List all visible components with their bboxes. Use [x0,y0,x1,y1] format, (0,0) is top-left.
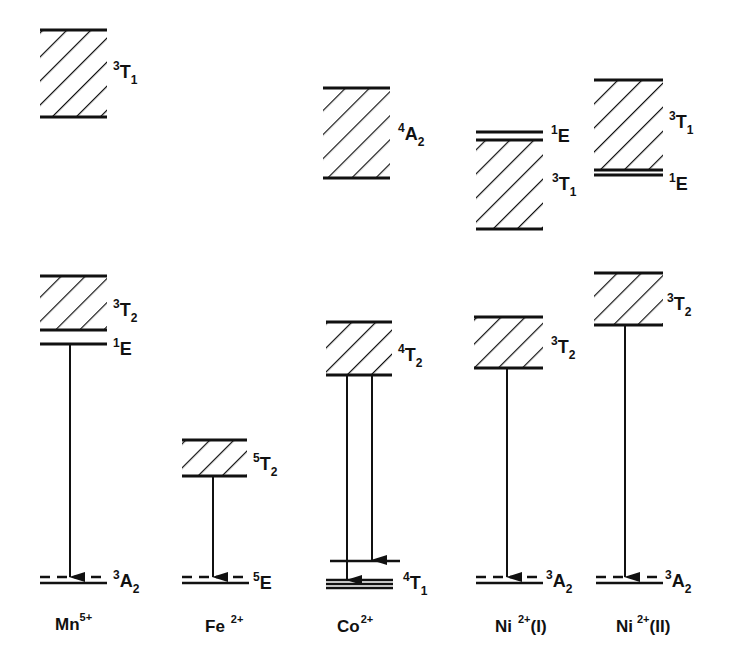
ion-column-ni2-ii: 3T1 1E 3T2 3A2 Ni2+(II) [594,80,694,636]
level-ground-4t1 [326,580,393,588]
ion-column-mn5: 3T1 3T2 1E 3A2 Mn5+ [40,30,140,634]
level-band-3t2 [40,276,107,330]
level-band-3t2 [594,273,663,325]
level-ground-3a2 [40,577,107,583]
level-band-3t2 [474,317,543,368]
ion-label-ni2-ii: Ni2+(II) [616,613,670,636]
term-label-3a2: 3A2 [546,568,573,596]
term-label-3t2: 3T2 [551,334,576,362]
term-label-3t2: 3T2 [667,291,692,319]
level-band-3t1 [476,140,543,229]
ion-label-fe2: Fe2+ [205,613,243,636]
energy-level-diagram: 3T1 3T2 1E 3A2 Mn5+ [0,0,737,670]
level-band-4a2 [323,88,390,178]
level-ground-3a2 [596,577,663,583]
term-label-3t1: 3T1 [669,109,694,137]
term-label-3a2: 3A2 [113,568,140,596]
level-band-3t1 [40,30,107,117]
ion-column-ni2-i: 1E 3T1 3T2 3A2 Ni2+(I) [474,123,577,636]
term-label-1e: 1E [669,171,688,194]
term-label-3a2: 3A2 [665,568,692,596]
ion-label-mn5: Mn5+ [55,611,92,634]
term-label-1e: 1E [113,336,132,359]
term-label-1e: 1E [551,123,570,146]
level-ground-3a2 [476,577,543,583]
level-band-3t1 [594,80,663,170]
term-label-4a2: 4A2 [398,121,425,149]
ion-label-ni2-i: Ni2+(I) [495,613,547,636]
term-label-4t1: 4T1 [403,570,428,598]
term-label-3t1: 3T1 [552,171,577,199]
ion-label-co2: Co2+ [337,613,373,636]
term-label-3t2: 3T2 [113,297,138,325]
level-band-5t2 [182,440,247,476]
term-label-3t1: 3T1 [113,59,138,87]
level-band-4t2 [326,322,392,375]
term-label-5e: 5E [253,570,272,593]
term-label-5t2: 5T2 [253,451,278,479]
ion-column-fe2: 5T2 5E Fe2+ [182,440,278,636]
term-label-4t2: 4T2 [398,342,423,370]
ion-column-co2: 4A2 4T2 4T1 Co2+ [323,88,428,636]
level-ground-5e [182,577,249,583]
